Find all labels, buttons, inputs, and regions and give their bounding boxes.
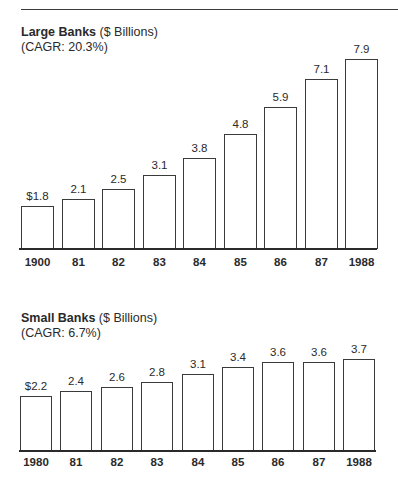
bar [141,382,173,451]
bar [224,134,257,249]
x-axis-tick-label: 83 [135,456,179,468]
large-banks-cagr: (CAGR: 20.3%) [21,40,108,55]
bar [21,206,54,249]
bar-value-label: 5.9 [261,91,301,103]
small-banks-title: Small Banks ($ Billions) [21,311,157,326]
large-banks-title-name: Large Banks [21,25,96,39]
x-axis-tick-label: 84 [176,456,220,468]
bar [60,391,92,451]
header-rule [21,9,398,10]
small-banks-title-unit: ($ Billions) [99,311,157,325]
bar [303,362,335,451]
x-axis-tick-label: 1988 [337,456,381,468]
x-axis-tick-label: 82 [95,456,139,468]
bar-value-label: 3.1 [178,358,218,370]
bar-value-label: 7.1 [302,63,342,75]
bar-value-label: 2.8 [137,366,177,378]
x-axis-tick-label: 87 [300,256,344,268]
x-axis-tick-label: 82 [97,256,141,268]
x-axis-tick-label: 81 [54,456,98,468]
x-axis-baseline [19,248,377,250]
x-axis-baseline [19,450,376,452]
bar-value-label: 2.6 [97,371,137,383]
x-axis-tick-label: 1980 [14,456,58,468]
bar [101,387,133,451]
bar [262,362,294,451]
bar-value-label: 3.4 [218,351,258,363]
bar [143,175,176,249]
x-axis-tick-label: 85 [216,456,260,468]
large-banks-title-unit: ($ Billions) [100,25,158,39]
bar-value-label: 4.8 [221,118,261,130]
bar [62,199,95,249]
bar-value-label: 7.9 [342,43,382,55]
bar-value-label: $2.2 [16,380,56,392]
large-banks-title: Large Banks ($ Billions) [21,25,158,40]
bar [222,367,254,451]
x-axis-tick-label: 86 [259,256,303,268]
bar [343,359,375,451]
bar [183,158,216,249]
x-axis-tick-label: 86 [256,456,300,468]
bar [20,396,52,451]
bar [305,79,338,249]
x-axis-tick-label: 83 [138,256,182,268]
x-axis-tick-label: 84 [178,256,222,268]
bar-value-label: 3.8 [180,142,220,154]
small-banks-cagr: (CAGR: 6.7%) [21,326,101,341]
bar-value-label: 3.6 [299,346,339,358]
bar-value-label: 2.1 [59,183,99,195]
bar-value-label: $1.8 [18,190,58,202]
bar [102,189,135,249]
bar [264,107,297,249]
x-axis-tick-label: 1900 [16,256,60,268]
bar-value-label: 3.1 [140,159,180,171]
x-axis-tick-label: 85 [219,256,263,268]
bar-value-label: 3.6 [258,346,298,358]
bar-value-label: 3.7 [339,343,379,355]
bar-value-label: 2.4 [56,375,96,387]
x-axis-tick-label: 81 [57,256,101,268]
bar [345,59,378,249]
x-axis-tick-label: 87 [297,456,341,468]
small-banks-title-name: Small Banks [21,311,95,325]
bar [182,374,214,451]
x-axis-tick-label: 1988 [340,256,384,268]
bar-value-label: 2.5 [99,173,139,185]
